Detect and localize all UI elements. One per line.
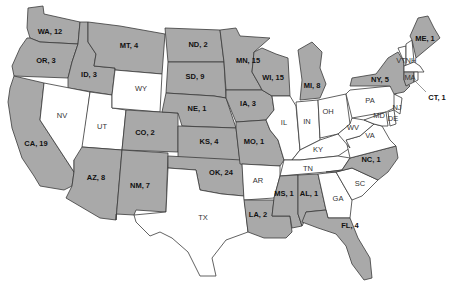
label-wv: WV <box>347 124 359 132</box>
state-wa <box>27 6 80 44</box>
label-mt: MT, 4 <box>120 42 138 50</box>
label-nm: NM, 7 <box>130 182 150 190</box>
label-tx: TX <box>198 214 208 222</box>
label-al: AL, 1 <box>300 190 318 198</box>
label-ks: KS, 4 <box>200 138 219 146</box>
label-me: ME, 1 <box>415 35 435 43</box>
us-map: WA, 12 OR, 3 CA, 19 ID, 3 NV UT AZ, 8 MT… <box>0 0 449 288</box>
label-il: IL <box>281 119 287 127</box>
label-or: OR, 3 <box>36 57 56 65</box>
label-sc: SC <box>355 180 365 188</box>
label-nc: NC, 1 <box>361 156 380 164</box>
label-ma: MA <box>404 74 415 82</box>
label-pa: PA <box>365 97 374 105</box>
label-md: MD <box>373 112 385 120</box>
label-co: CO, 2 <box>135 129 155 137</box>
label-ut: UT <box>97 123 107 131</box>
label-ct: CT, 1 <box>428 94 446 102</box>
label-la: LA, 2 <box>249 211 267 219</box>
label-de: DE <box>388 115 398 123</box>
label-vt: VT <box>396 57 406 65</box>
label-mi: MI, 8 <box>304 82 321 90</box>
label-ky: KY <box>313 146 323 154</box>
label-ny: NY, 5 <box>371 76 389 84</box>
label-ok: OK, 24 <box>209 169 233 177</box>
label-sd: SD, 9 <box>186 73 205 81</box>
label-nj: NJ <box>392 104 401 112</box>
label-wy: WY <box>135 85 147 93</box>
label-wa: WA, 12 <box>38 28 63 36</box>
state-fl <box>302 210 372 280</box>
label-nh: NH <box>406 57 417 65</box>
label-tn: TN <box>303 165 313 173</box>
label-fl: FL, 4 <box>341 222 359 230</box>
label-ar: AR <box>253 177 263 185</box>
ct-leader-line <box>414 80 426 92</box>
label-va: VA <box>365 132 374 140</box>
label-az: AZ, 8 <box>87 174 105 182</box>
label-id: ID, 3 <box>81 71 97 79</box>
label-nv: NV <box>57 112 67 120</box>
label-ms: MS, 1 <box>274 190 294 198</box>
label-oh: OH <box>322 108 333 116</box>
label-mo: MO, 1 <box>244 138 264 146</box>
label-ne: NE, 1 <box>188 105 207 113</box>
label-nd: ND, 2 <box>188 41 207 49</box>
state-mi <box>298 42 326 100</box>
label-ca: CA, 19 <box>24 140 47 148</box>
label-mn: MN, 15 <box>236 57 260 65</box>
label-wi: WI, 15 <box>262 74 284 82</box>
label-ga: GA <box>333 195 344 203</box>
label-in: IN <box>303 118 311 126</box>
label-ia: IA, 3 <box>240 100 256 108</box>
